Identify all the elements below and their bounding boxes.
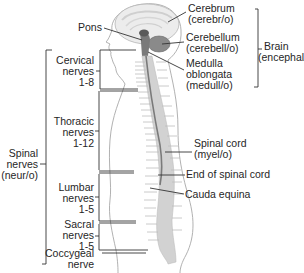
label-cauda-equina: Cauda equina xyxy=(185,189,250,200)
label-pons: Pons xyxy=(78,22,102,33)
anatomy-illustration xyxy=(0,0,304,273)
coccygeal-text-2: nerve xyxy=(45,259,94,270)
label-spinal-nerves: Spinal nerves (neur/o) xyxy=(1,148,38,181)
lumbar-range: 1-5 xyxy=(58,204,94,215)
label-spinal-cord: Spinal cord (myel/o) xyxy=(194,138,247,160)
cauda-equina-text: Cauda equina xyxy=(185,188,250,200)
label-cerebellum: Cerebellum (cerebell/o) xyxy=(186,32,240,54)
thoracic-range: 1-12 xyxy=(54,138,94,149)
spinal-nerves-root: (neur/o) xyxy=(1,170,38,181)
label-thoracic-nerves: Thoracic nerves 1-12 xyxy=(54,116,94,149)
spinal-cord-root: (myel/o) xyxy=(194,149,247,160)
end-of-spinal-cord-text: End of spinal cord xyxy=(186,168,270,180)
spinal-column xyxy=(135,56,183,264)
medulla-root: (medull/o) xyxy=(186,80,233,91)
cerebrum-root: (cerebr/o) xyxy=(188,14,235,25)
nervous-system-diagram: Pons Cerebrum (cerebr/o) Cerebellum (cer… xyxy=(0,0,304,273)
label-cervical-nerves: Cervical nerves 1-8 xyxy=(56,55,94,88)
brain-illustration xyxy=(115,4,179,56)
cervical-range: 1-8 xyxy=(56,77,94,88)
pons-text: Pons xyxy=(78,21,102,33)
label-brain: Brain (encephal/o) xyxy=(264,41,304,63)
brain-root: (encephal/o) xyxy=(258,52,304,63)
label-coccygeal-nerve: Coccygeal nerve xyxy=(45,248,94,270)
label-cerebrum: Cerebrum (cerebr/o) xyxy=(188,3,235,25)
label-end-of-spinal-cord: End of spinal cord xyxy=(186,169,270,180)
label-medulla-oblongata: Medulla oblongata (medull/o) xyxy=(186,58,233,91)
cerebellum-root: (cerebell/o) xyxy=(186,43,240,54)
label-lumbar-nerves: Lumbar nerves 1-5 xyxy=(58,182,94,215)
